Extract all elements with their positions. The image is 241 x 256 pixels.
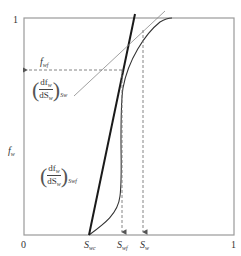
fwf-label: fwf: [40, 57, 48, 68]
y-tick-1: 1: [13, 15, 18, 25]
x-tick-0: 0: [21, 240, 26, 250]
y-axis-label: fw: [8, 146, 15, 157]
fractional-flow-curve: [89, 18, 172, 235]
x-tick-1: 1: [231, 240, 236, 250]
fractional-flow-diagram: [0, 0, 241, 256]
swf-label: Swf: [117, 240, 128, 251]
swc-label: Swc: [84, 240, 96, 251]
tangent-label-sw: ( dfw dSw ) Sw: [32, 78, 67, 101]
tangent-label-swf: ( dfw dSw ) Swf: [40, 164, 77, 187]
tangent-line-sw: [74, 11, 165, 96]
sw-label: Sw: [140, 240, 149, 251]
tangent-line-swc: [89, 14, 135, 235]
plot-frame: [24, 18, 234, 235]
